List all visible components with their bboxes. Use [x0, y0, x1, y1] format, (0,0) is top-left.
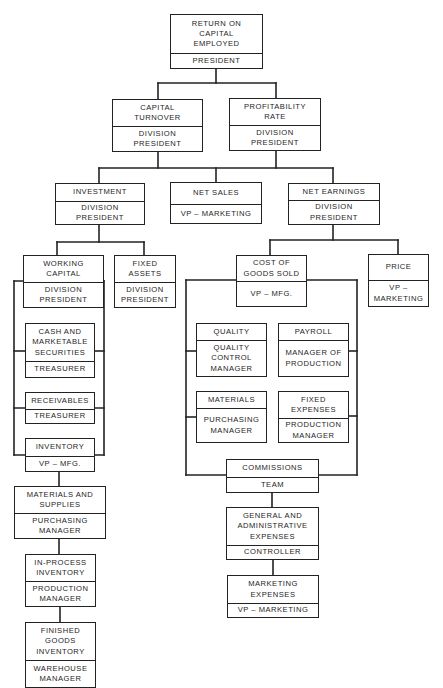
node-investment: INVESTMENT DIVISION PRESIDENT [55, 183, 145, 225]
node-materials: MATERIALS PURCHASING MANAGER [196, 391, 267, 443]
node-materials-supplies: MATERIALS AND SUPPLIES PURCHASING MANAGE… [14, 486, 106, 539]
node-owner-label: PURCHASING MANAGER [197, 408, 266, 442]
node-metric-label: FIXED ASSETS [115, 256, 175, 282]
node-owner-label: VP – MFG. [237, 281, 306, 306]
node-metric-label: CASH AND MARKETABLE SECURITIES [26, 324, 94, 361]
node-metric-label: RETURN ON CAPITAL EMPLOYED [171, 15, 262, 53]
node-quality: QUALITY QUALITY CONTROL MANAGER [196, 323, 267, 377]
node-roce: RETURN ON CAPITAL EMPLOYED PRESIDENT [170, 14, 263, 69]
node-metric-label: GENERAL AND ADMINISTRATIVE EXPENSES [227, 508, 318, 545]
node-fixed-assets: FIXED ASSETS DIVISION PRESIDENT [114, 255, 176, 308]
node-net-earnings: NET EARNINGS DIVISION PRESIDENT [288, 183, 380, 225]
node-g-and-a: GENERAL AND ADMINISTRATIVE EXPENSES CONT… [226, 507, 319, 560]
node-owner-label: CONTROLLER [227, 545, 318, 559]
node-net-sales: NET SALES VP – MARKETING [170, 182, 262, 224]
node-owner-label: DIVISION PRESIDENT [24, 282, 103, 307]
node-metric-label: MATERIALS [197, 392, 266, 408]
node-owner-label: TEAM [227, 477, 318, 492]
node-owner-label: DIVISION PRESIDENT [115, 282, 175, 307]
node-metric-label: COMMISSIONS [227, 460, 318, 477]
node-owner-label: DIVISION PRESIDENT [56, 201, 144, 224]
node-metric-label: NET SALES [171, 183, 261, 204]
node-metric-label: PRICE [369, 255, 428, 280]
node-metric-label: NET EARNINGS [289, 184, 379, 200]
node-metric-label: WORKING CAPITAL [24, 256, 103, 282]
node-owner-label: PRODUCTION MANAGER [279, 418, 348, 442]
node-receivables: RECEIVABLES TREASURER [25, 392, 95, 424]
node-working-capital: WORKING CAPITAL DIVISION PRESIDENT [23, 255, 104, 308]
node-metric-label: PAYROLL [279, 324, 348, 340]
node-metric-label: FINISHED GOODS INVENTORY [26, 623, 95, 660]
node-capital-turnover: CAPITAL TURNOVER DIVISION PRESIDENT [112, 99, 203, 152]
node-owner-label: DIVISION PRESIDENT [289, 200, 379, 224]
node-owner-label: VP – MFG. [26, 456, 94, 471]
node-owner-label: DIVISION PRESIDENT [230, 125, 320, 150]
node-marketing-expenses: MARKETING EXPENSES VP – MARKETING [227, 575, 319, 618]
node-metric-label: MATERIALS AND SUPPLIES [15, 487, 105, 513]
node-finished-goods: FINISHED GOODS INVENTORY WAREHOUSE MANAG… [25, 622, 96, 688]
node-owner-label: WAREHOUSE MANAGER [26, 660, 95, 687]
node-cash: CASH AND MARKETABLE SECURITIES TREASURER [25, 323, 95, 378]
node-owner-label: TREASURER [26, 361, 94, 377]
node-metric-label: FIXED EXPENSES [279, 392, 348, 418]
node-in-process: IN-PROCESS INVENTORY PRODUCTION MANAGER [25, 554, 96, 607]
node-owner-label: VP – MARKETING [171, 204, 261, 223]
node-owner-label: DIVISION PRESIDENT [113, 126, 202, 151]
node-metric-label: RECEIVABLES [26, 393, 94, 409]
node-owner-label: VP – MARKETING [228, 603, 318, 617]
node-metric-label: IN-PROCESS INVENTORY [26, 555, 95, 581]
node-owner-label: QUALITY CONTROL MANAGER [197, 340, 266, 376]
node-inventory: INVENTORY VP – MFG. [25, 438, 95, 472]
node-metric-label: INVENTORY [26, 439, 94, 456]
node-commissions: COMMISSIONS TEAM [226, 459, 319, 493]
node-price: PRICE VP – MARKETING [368, 254, 429, 307]
node-owner-label: TREASURER [26, 409, 94, 423]
node-owner-label: VP – MARKETING [369, 280, 428, 306]
node-metric-label: QUALITY [197, 324, 266, 340]
node-owner-label: MANAGER OF PRODUCTION [279, 340, 348, 376]
node-owner-label: PURCHASING MANAGER [15, 513, 105, 538]
node-owner-label: PRESIDENT [171, 53, 262, 68]
node-payroll: PAYROLL MANAGER OF PRODUCTION [278, 323, 349, 377]
node-profitability-rate: PROFITABILITY RATE DIVISION PRESIDENT [229, 98, 321, 151]
node-fixed-expenses: FIXED EXPENSES PRODUCTION MANAGER [278, 391, 349, 443]
node-metric-label: CAPITAL TURNOVER [113, 100, 202, 126]
node-owner-label: PRODUCTION MANAGER [26, 581, 95, 606]
node-cogs: COST OF GOODS SOLD VP – MFG. [236, 255, 307, 307]
node-metric-label: INVESTMENT [56, 184, 144, 201]
node-metric-label: MARKETING EXPENSES [228, 576, 318, 603]
node-metric-label: PROFITABILITY RATE [230, 99, 320, 125]
node-metric-label: COST OF GOODS SOLD [237, 256, 306, 281]
